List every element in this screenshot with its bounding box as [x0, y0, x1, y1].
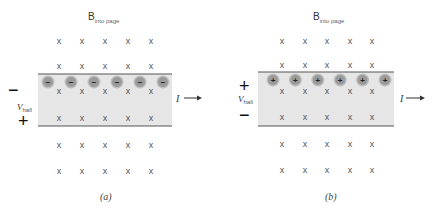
current-arrow-b	[406, 96, 425, 101]
negative-carrier: −	[111, 76, 124, 89]
field-mark-into-page: x	[149, 113, 154, 123]
field-mark-into-page: x	[103, 166, 108, 176]
hall-effect-diagram: Binto page xxxxxxxxxxxxxxxxxxxxxxxxxxxxx…	[0, 0, 441, 211]
field-mark-into-page: x	[103, 61, 108, 71]
field-mark-into-page: x	[325, 36, 330, 46]
current-arrow-a	[184, 96, 202, 101]
field-mark-into-page: x	[348, 60, 353, 70]
field-mark-into-page: x	[280, 86, 285, 96]
panel-caption-a: (a)	[100, 191, 112, 203]
field-mark-into-page: x	[325, 165, 330, 175]
field-mark-into-page: x	[126, 166, 131, 176]
carrier-sign: −	[115, 78, 120, 87]
negative-carrier: −	[42, 76, 55, 89]
field-mark-into-page: x	[149, 140, 154, 150]
carrier-sign: −	[161, 78, 166, 87]
positive-carrier: +	[356, 74, 369, 87]
field-mark-into-page: x	[80, 140, 85, 150]
field-mark-into-page: x	[348, 112, 353, 122]
carrier-sign: +	[383, 76, 388, 85]
field-mark-into-page: x	[325, 139, 330, 149]
positive-carrier: +	[379, 74, 392, 87]
negative-carrier: −	[88, 76, 101, 89]
negative-carrier: −	[134, 76, 147, 89]
field-mark-into-page: x	[57, 36, 62, 46]
panel-a-negative-carriers: Binto page xxxxxxxxxxxxxxxxxxxxxxxxxxxxx…	[8, 11, 202, 203]
top-terminal-sign-b: +	[239, 76, 250, 96]
panel-b-positive-carriers: Binto page xxxxxxxxxxxxxxxxxxxxxxxxxxxxx…	[238, 11, 425, 203]
field-mark-into-page: x	[103, 36, 108, 46]
field-mark-into-page: x	[303, 139, 308, 149]
field-mark-into-page: x	[325, 112, 330, 122]
field-mark-into-page: x	[126, 140, 131, 150]
carrier-sign: −	[92, 78, 97, 87]
field-mark-into-page: x	[80, 61, 85, 71]
field-mark-into-page: x	[103, 113, 108, 123]
field-mark-into-page: x	[370, 165, 375, 175]
field-mark-into-page: x	[57, 61, 62, 71]
negative-carrier: −	[157, 76, 170, 89]
field-mark-into-page: x	[303, 165, 308, 175]
field-mark-into-page: x	[370, 112, 375, 122]
field-mark-into-page: x	[126, 113, 131, 123]
field-mark-into-page: x	[348, 139, 353, 149]
top-terminal-sign-a: −	[8, 80, 19, 100]
field-mark-into-page: x	[57, 140, 62, 150]
field-mark-into-page: x	[57, 86, 62, 96]
field-mark-into-page: x	[348, 36, 353, 46]
positive-carrier: +	[289, 74, 302, 87]
field-mark-into-page: x	[280, 165, 285, 175]
carrier-sign: +	[293, 76, 298, 85]
field-label-b: Binto page	[313, 11, 345, 24]
carrier-sign: −	[69, 78, 74, 87]
field-mark-into-page: x	[80, 113, 85, 123]
field-mark-into-page: x	[303, 112, 308, 122]
field-label-a: Binto page	[88, 11, 120, 24]
carrier-sign: +	[360, 76, 365, 85]
field-mark-into-page: x	[370, 36, 375, 46]
field-mark-into-page: x	[149, 166, 154, 176]
field-mark-into-page: x	[370, 139, 375, 149]
carrier-sign: +	[271, 76, 276, 85]
field-mark-into-page: x	[325, 86, 330, 96]
field-mark-into-page: x	[149, 36, 154, 46]
carrier-sign: +	[315, 76, 320, 85]
field-mark-into-page: x	[280, 60, 285, 70]
field-mark-into-page: x	[325, 60, 330, 70]
field-mark-into-page: x	[80, 166, 85, 176]
field-mark-into-page: x	[149, 61, 154, 71]
field-mark-into-page: x	[57, 113, 62, 123]
positive-carrier: +	[311, 74, 324, 87]
current-label-a: I	[175, 93, 180, 104]
field-mark-into-page: x	[303, 86, 308, 96]
positive-carrier: +	[267, 74, 280, 87]
positive-carrier: +	[334, 74, 347, 87]
panel-caption-b: (b)	[325, 191, 337, 203]
field-mark-into-page: x	[280, 112, 285, 122]
field-mark-into-page: x	[370, 60, 375, 70]
field-mark-into-page: x	[103, 86, 108, 96]
current-label-b: I	[399, 93, 404, 104]
field-mark-into-page: x	[80, 36, 85, 46]
bottom-terminal-sign-a: +	[18, 111, 29, 131]
field-mark-into-page: x	[126, 61, 131, 71]
field-mark-into-page: x	[280, 139, 285, 149]
carrier-sign: +	[338, 76, 343, 85]
negative-carrier: −	[65, 76, 78, 89]
field-mark-into-page: x	[280, 36, 285, 46]
field-mark-into-page: x	[149, 86, 154, 96]
field-mark-into-page: x	[57, 166, 62, 176]
bottom-terminal-sign-b: −	[239, 105, 250, 125]
field-mark-into-page: x	[126, 86, 131, 96]
field-mark-into-page: x	[370, 86, 375, 96]
field-mark-into-page: x	[103, 140, 108, 150]
field-mark-into-page: x	[348, 86, 353, 96]
field-mark-into-page: x	[303, 60, 308, 70]
field-mark-into-page: x	[80, 86, 85, 96]
carrier-sign: −	[46, 78, 51, 87]
field-mark-into-page: x	[348, 165, 353, 175]
field-mark-into-page: x	[303, 36, 308, 46]
field-mark-into-page: x	[126, 36, 131, 46]
carrier-sign: −	[138, 78, 143, 87]
